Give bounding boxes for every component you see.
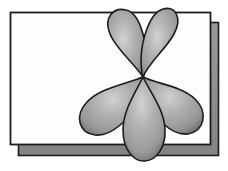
figure-canvas: Orbital lobe diagram on layered cards fi…: [0, 0, 228, 171]
orbital-center-node: [141, 75, 144, 78]
orbital-diagram: [0, 0, 228, 171]
